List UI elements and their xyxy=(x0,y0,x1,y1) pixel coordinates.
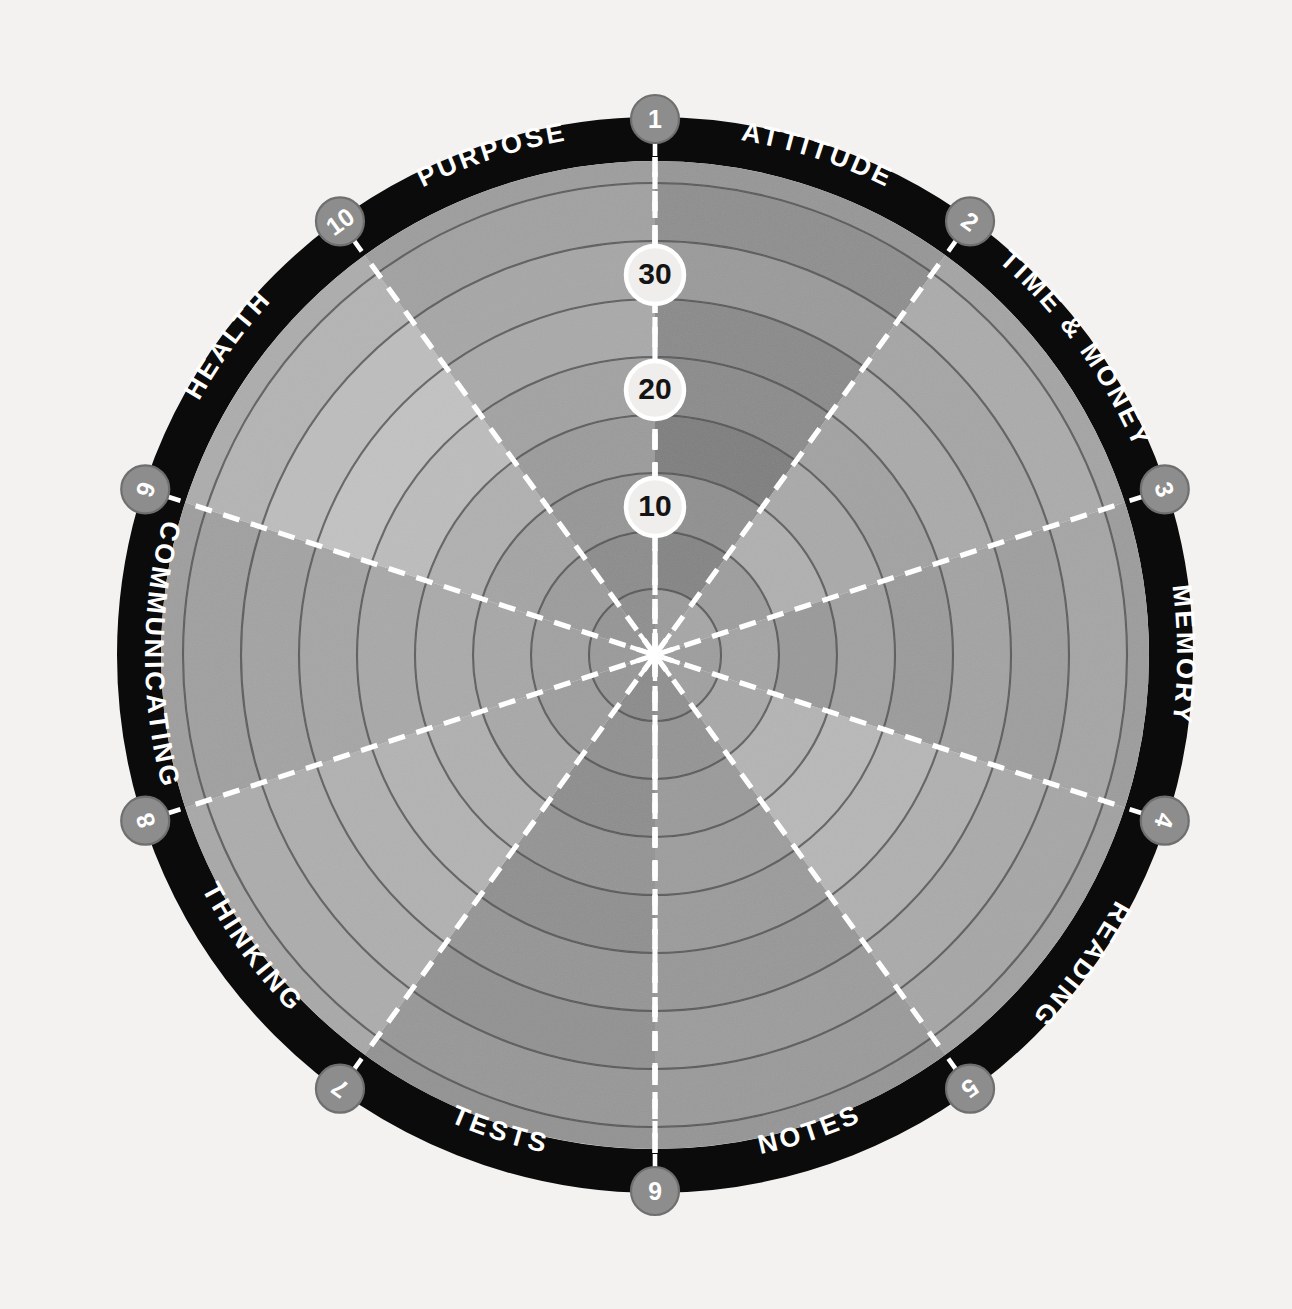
wheel-chart-canvas: ATTITUDETIME & MONEYMEMORYREADINGNOTESTE… xyxy=(0,0,1292,1309)
badge-5[interactable]: 5 xyxy=(946,1065,994,1113)
badge-number-6: 6 xyxy=(648,1177,662,1205)
badge-2[interactable]: 2 xyxy=(946,197,994,245)
badge-1[interactable]: 1 xyxy=(631,95,679,143)
badge-9[interactable]: 9 xyxy=(121,465,169,513)
assessment-wheel: ATTITUDETIME & MONEYMEMORYREADINGNOTESTE… xyxy=(0,0,1292,1309)
badge-10[interactable]: 10 xyxy=(316,197,364,245)
badge-8[interactable]: 8 xyxy=(121,797,169,845)
segment-r4[interactable] xyxy=(415,581,482,729)
scale-marker-20: 20 xyxy=(626,361,684,419)
scale-marker-value-20: 20 xyxy=(638,372,671,405)
scale-marker-value-10: 10 xyxy=(638,489,671,522)
scale-marker-10: 10 xyxy=(626,478,684,536)
badge-6[interactable]: 6 xyxy=(631,1167,679,1215)
scale-marker-value-30: 30 xyxy=(638,257,671,290)
scale-markers: 102030 xyxy=(626,246,684,536)
badge-number-1: 1 xyxy=(648,105,662,133)
badge-7[interactable]: 7 xyxy=(316,1065,364,1113)
badge-3[interactable]: 3 xyxy=(1141,465,1189,513)
segment-r4[interactable] xyxy=(828,581,895,729)
scale-marker-30: 30 xyxy=(626,246,684,304)
center-point xyxy=(651,651,659,659)
badge-4[interactable]: 4 xyxy=(1141,797,1189,845)
